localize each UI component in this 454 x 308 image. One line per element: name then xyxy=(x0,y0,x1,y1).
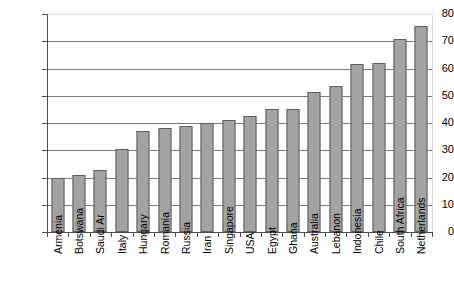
x-axis-tick-mark xyxy=(133,233,134,237)
bar[interactable] xyxy=(244,116,257,232)
bar[interactable] xyxy=(351,64,364,232)
bars-container xyxy=(47,14,432,232)
x-axis-tick-label-text: Ghana xyxy=(288,240,299,254)
bar-slot xyxy=(47,14,68,232)
bar[interactable] xyxy=(180,126,193,232)
bar-slot xyxy=(368,14,389,232)
bar[interactable] xyxy=(286,109,299,232)
bar-slot xyxy=(346,14,367,232)
x-axis-tick-label: Australia xyxy=(309,240,323,251)
bar[interactable] xyxy=(329,86,342,232)
x-axis-tick-mark xyxy=(411,233,412,237)
x-axis-tick-label-text: South Africa xyxy=(395,240,406,254)
bar-slot xyxy=(68,14,89,232)
bar-slot xyxy=(282,14,303,232)
x-axis-tick-mark xyxy=(282,233,283,237)
x-axis-tick-mark xyxy=(154,233,155,237)
bar-slot xyxy=(218,14,239,232)
x-axis-tick-label: Singapore xyxy=(224,240,238,251)
bar-slot xyxy=(175,14,196,232)
x-axis-tick-mark xyxy=(346,233,347,237)
x-axis-tick-label-text: USA xyxy=(245,240,256,254)
x-axis-tick-label: Armenia xyxy=(53,240,67,251)
bar[interactable] xyxy=(372,63,385,232)
x-axis-tick-label: Russia xyxy=(181,240,195,251)
bar-slot xyxy=(325,14,346,232)
bar[interactable] xyxy=(115,149,128,232)
x-axis-tick-mark xyxy=(368,233,369,237)
x-axis-tick-label: Ghana xyxy=(288,240,302,251)
x-axis-tick-label-text: Chile xyxy=(374,240,385,254)
bar-slot xyxy=(261,14,282,232)
x-axis-tick-label-text: Netherlands xyxy=(416,240,427,254)
x-axis-tick-label: Hungary xyxy=(138,240,152,251)
x-axis-tick-mark xyxy=(240,233,241,237)
x-axis-tick-label-text: Hungary xyxy=(138,240,149,254)
bar-slot xyxy=(90,14,111,232)
x-axis-tick-label-text: Italy xyxy=(117,240,128,254)
bar-slot xyxy=(197,14,218,232)
x-axis-tick-label: Italy xyxy=(117,240,131,251)
x-axis-tick-mark xyxy=(304,233,305,237)
x-axis-tick-mark xyxy=(261,233,262,237)
x-axis-tick-label: Lebanon xyxy=(331,240,345,251)
x-axis-tick-label-text: Saudi Ar xyxy=(95,240,106,254)
x-axis-tick-label: Egypt xyxy=(267,240,281,251)
x-axis-tick-mark xyxy=(90,233,91,237)
bar[interactable] xyxy=(201,123,214,232)
x-axis-tick-mark xyxy=(389,233,390,237)
x-axis-tick-label: Indonesia xyxy=(352,240,366,251)
x-axis-tick-label: Romania xyxy=(160,240,174,251)
x-axis-tick-label: Iran xyxy=(202,240,216,251)
x-axis-tick-label-text: Australia xyxy=(309,240,320,254)
x-axis-tick-label: Chile xyxy=(374,240,388,251)
x-axis-tick-mark xyxy=(197,233,198,237)
x-axis-tick-label-text: Botswana xyxy=(74,240,85,254)
x-axis-tick-label: Botswana xyxy=(74,240,88,251)
x-axis-tick-mark xyxy=(325,233,326,237)
x-axis-tick-label-text: Singapore xyxy=(224,240,235,254)
bar[interactable] xyxy=(265,109,278,232)
x-axis-tick-label-text: Indonesia xyxy=(352,240,363,254)
bar[interactable] xyxy=(308,92,321,232)
bar-slot xyxy=(240,14,261,232)
bar-slot xyxy=(111,14,132,232)
x-axis-tick-mark xyxy=(218,233,219,237)
x-axis-tick-mark xyxy=(432,233,433,237)
bar-slot xyxy=(304,14,325,232)
bar-slot xyxy=(133,14,154,232)
x-axis-tick-label-text: Egypt xyxy=(267,240,278,254)
x-axis-tick-label-text: Russia xyxy=(181,240,192,254)
x-axis-tick-label-text: Romania xyxy=(160,240,171,254)
x-axis-tick-mark xyxy=(175,233,176,237)
x-axis-tick-label-text: Iran xyxy=(202,240,213,254)
x-axis-tick-label: USA xyxy=(245,240,259,251)
x-axis-tick-label: Netherlands xyxy=(416,240,430,251)
x-axis-tick-mark xyxy=(47,233,48,237)
bar-slot xyxy=(154,14,175,232)
x-axis-tick-label: South Africa xyxy=(395,240,409,251)
bar-chart: 80706050403020100 ArmeniaBotswanaSaudi A… xyxy=(0,0,454,308)
x-axis-tick-label-text: Armenia xyxy=(53,240,64,254)
x-axis-tick-label: Saudi Ar xyxy=(95,240,109,251)
x-axis-tick-label-text: Lebanon xyxy=(331,240,342,254)
x-axis-tick-mark xyxy=(68,233,69,237)
x-axis-tick-mark xyxy=(111,233,112,237)
